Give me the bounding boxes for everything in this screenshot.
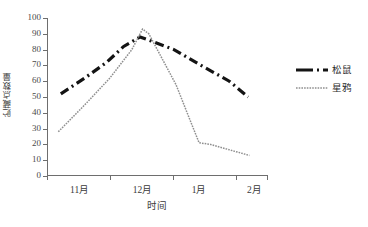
legend-item-2[interactable]: 星鸦 [296, 80, 368, 96]
y-tick-label: 30 [32, 123, 41, 134]
chart-page: 贮藏点数量 0102030405060708090100 11月12月1月2月 … [0, 0, 368, 227]
y-axis-title-text: 贮藏点数量 [4, 72, 13, 117]
legend-label: 松鼠 [332, 65, 352, 76]
y-tick-label: 50 [32, 91, 41, 102]
y-tick-label: 70 [32, 59, 41, 70]
x-tick-label: 2月 [247, 184, 262, 196]
chart-legend: 松鼠星鸦 [296, 62, 368, 98]
x-tick-label: 12月 [133, 184, 153, 196]
x-tick-label: 11月 [70, 184, 89, 196]
y-tick-label: 40 [32, 107, 41, 118]
x-tick-label: 1月 [192, 184, 207, 196]
y-tick-label: 0 [37, 170, 42, 181]
legend-label: 星鸦 [332, 83, 352, 94]
thin-dotted-line-icon [296, 83, 328, 93]
x-axis-title: 时间 [147, 198, 167, 212]
y-tick-label: 90 [32, 28, 41, 39]
y-tick-label: 80 [32, 44, 41, 55]
plot-area: 0102030405060708090100 11月12月1月2月 [47, 18, 267, 176]
y-tick-label: 10 [32, 154, 41, 165]
y-tick-label: 100 [28, 12, 42, 23]
y-tick-label: 20 [32, 138, 41, 149]
series-line-2 [58, 29, 249, 155]
series-lines [47, 18, 267, 176]
thick-dashed-line-icon [296, 65, 328, 75]
y-tick-label: 60 [32, 75, 41, 86]
legend-item-1[interactable]: 松鼠 [296, 62, 368, 78]
y-axis-title: 贮藏点数量 [0, 52, 16, 136]
x-tick-mark [267, 175, 268, 180]
